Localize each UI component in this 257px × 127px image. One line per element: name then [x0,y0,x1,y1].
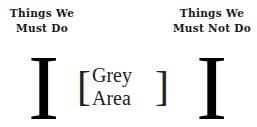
close-bracket: ] [155,66,169,106]
must-not-do-boundary-marker: I [196,40,227,127]
grey-area-label: [ Grey Area ] [77,66,169,106]
must-do-heading: Things We Must Do [2,6,82,36]
must-not-do-heading: Things We Must Not Do [170,6,254,36]
open-bracket: [ [77,66,91,106]
grey-area-text: Grey Area [91,64,155,110]
must-do-boundary-marker: I [28,40,59,127]
must-do-heading-line1: Things We [2,6,82,21]
must-do-heading-line2: Must Do [2,21,82,36]
must-not-do-heading-line1: Things We [170,6,254,21]
must-not-do-heading-line2: Must Not Do [170,21,254,36]
